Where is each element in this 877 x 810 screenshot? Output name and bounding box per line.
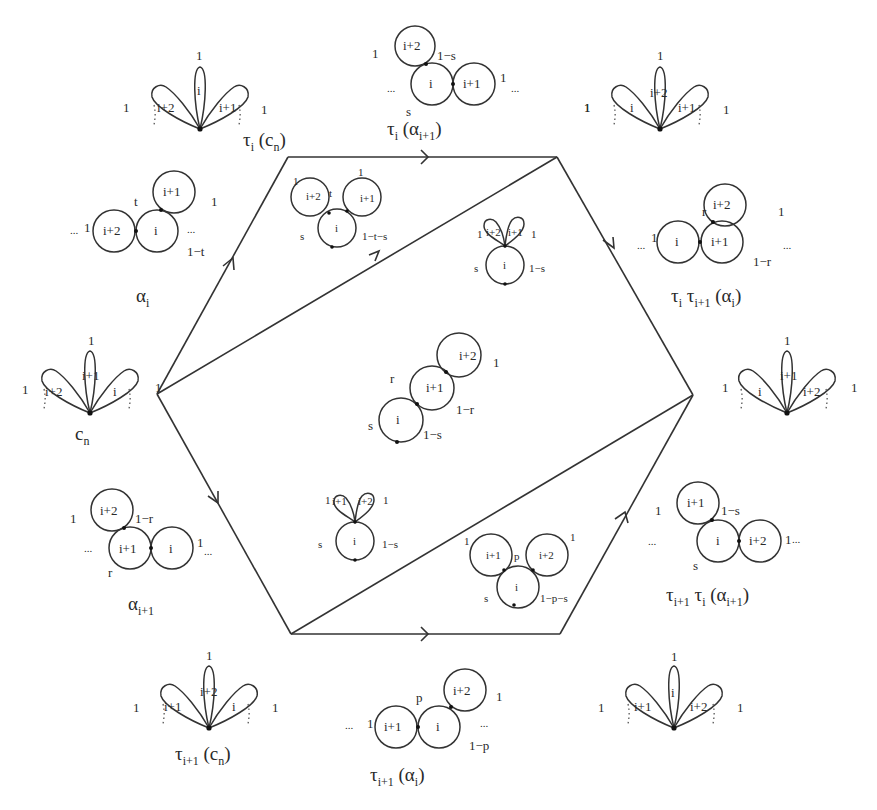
- svg-text:...: ...: [511, 82, 520, 94]
- svg-text:s: s: [474, 262, 478, 274]
- svg-text:i: i: [113, 384, 117, 399]
- svg-text:...: ...: [648, 535, 657, 547]
- svg-text:i+1: i+1: [163, 184, 180, 199]
- svg-text:i+1: i+1: [219, 100, 236, 115]
- svg-text:i+1: i+1: [463, 76, 480, 91]
- svg-text:i+2: i+2: [45, 384, 62, 399]
- svg-text:...: ...: [187, 223, 196, 235]
- svg-text:i+1: i+1: [711, 234, 728, 249]
- svg-text:1: 1: [272, 700, 279, 715]
- svg-text:1: 1: [531, 228, 537, 240]
- svg-text:s: s: [300, 230, 304, 242]
- svg-text:i+1: i+1: [332, 495, 347, 507]
- svg-text:1−r: 1−r: [456, 402, 475, 417]
- svg-text:i: i: [671, 685, 675, 700]
- svg-text:1: 1: [464, 535, 470, 547]
- svg-text:1: 1: [372, 46, 379, 61]
- svg-text:...: ...: [783, 239, 792, 251]
- svg-text:p: p: [514, 550, 520, 562]
- flower-tau-i-cn: 1 i i+2 i+1 1 1 τi (cn): [123, 48, 286, 154]
- svg-text:1−s: 1−s: [423, 427, 442, 442]
- config-alpha-i1: i+2 i+1 i 1 1−r ... 1 ... r αi+1: [70, 489, 213, 618]
- svg-text:1: 1: [722, 380, 729, 395]
- svg-text:i+1: i+1: [360, 192, 375, 204]
- svg-text:1−s: 1−s: [529, 262, 545, 274]
- svg-text:i+1: i+1: [678, 100, 695, 115]
- svg-text:i+2: i+2: [459, 348, 476, 363]
- svg-text:s: s: [318, 538, 322, 550]
- config-alpha-i: i+1 i+2 i t 1 ... 1 ... 1−t αi: [70, 171, 218, 310]
- svg-text:1: 1: [493, 355, 500, 370]
- svg-text:i+1: i+1: [82, 368, 99, 383]
- svg-text:1−p: 1−p: [469, 738, 489, 753]
- svg-text:...: ...: [345, 719, 354, 731]
- svg-text:i+1: i+1: [687, 495, 704, 510]
- svg-text:1: 1: [367, 716, 374, 731]
- svg-text:i: i: [503, 259, 506, 271]
- svg-text:1: 1: [84, 220, 91, 235]
- svg-text:i+2: i+2: [803, 384, 820, 399]
- svg-text:1: 1: [358, 166, 364, 178]
- svg-text:...: ...: [70, 224, 79, 236]
- svg-text:i: i: [335, 222, 338, 234]
- svg-text:τi (αi+1): τi (αi+1): [387, 118, 441, 143]
- svg-text:1: 1: [778, 204, 785, 219]
- svg-text:1: 1: [784, 333, 791, 348]
- svg-text:1: 1: [785, 532, 792, 547]
- svg-text:i+1: i+1: [384, 719, 401, 734]
- svg-text:1: 1: [496, 689, 503, 704]
- svg-text:s: s: [693, 558, 698, 573]
- config-center-chain: i+2 i+1 i 1 r 1−r s 1−s: [368, 333, 500, 444]
- svg-text:αi+1: αi+1: [128, 593, 154, 618]
- flower-right: 1 i+1 i i+2 1 1: [722, 333, 858, 416]
- svg-text:...: ...: [387, 82, 396, 94]
- svg-text:1: 1: [88, 333, 95, 348]
- svg-text:i: i: [353, 535, 356, 547]
- svg-text:i+2: i+2: [453, 683, 470, 698]
- config-inner-bottom-right: i+1 i+2 i 1 1 p s 1−p−s: [464, 531, 576, 608]
- svg-text:1: 1: [570, 531, 576, 543]
- hexagon-edges: [157, 157, 693, 634]
- svg-text:1−r: 1−r: [753, 254, 772, 269]
- svg-text:1: 1: [500, 70, 507, 85]
- config-tau-i-tau-i1-alpha-i: i+2 i i+1 r 1 ... 1 ... 1−r τi τi+1 (αi): [637, 184, 792, 310]
- svg-text:1−r: 1−r: [135, 511, 154, 526]
- svg-text:1−s: 1−s: [437, 48, 456, 63]
- svg-text:s: s: [484, 592, 488, 604]
- arrow-icon: [615, 512, 628, 523]
- svg-text:1: 1: [196, 48, 203, 63]
- flower-tau-i1-cn: 1 i+2 i+1 i 1 1 τi+1 (cn): [133, 648, 279, 768]
- svg-text:i: i: [675, 234, 679, 249]
- svg-text:i: i: [630, 100, 634, 115]
- arrow-icon: [369, 251, 379, 261]
- svg-text:i+2: i+2: [690, 699, 707, 714]
- svg-text:i+1: i+1: [508, 226, 523, 238]
- svg-text:1: 1: [655, 503, 662, 518]
- svg-text:r: r: [390, 371, 395, 386]
- svg-text:i+2: i+2: [157, 100, 174, 115]
- config-inner-top-right: i+2 i+1 1 1 i s 1−s: [474, 217, 545, 285]
- svg-text:i+1: i+1: [164, 699, 181, 714]
- flower-cn: 1 i+1 i+2 i 1 1 cn: [22, 333, 162, 448]
- svg-text:r: r: [702, 204, 707, 219]
- svg-text:1: 1: [211, 194, 218, 209]
- svg-text:i+1: i+1: [634, 699, 651, 714]
- config-tau-i1-tau-i-alpha-i1: i+1 i i+2 1 1−s ... 1 ... s τi+1 τi (αi+…: [648, 482, 801, 609]
- svg-text:1: 1: [70, 511, 77, 526]
- svg-text:τi (cn): τi (cn): [243, 129, 286, 154]
- svg-text:i+2: i+2: [200, 684, 217, 699]
- svg-text:1: 1: [598, 700, 605, 715]
- svg-text:1: 1: [325, 494, 331, 506]
- config-tau-i1-alpha-i: i+2 i+1 i p 1 ... 1 ... 1−p τi+1 (αi): [345, 669, 503, 789]
- svg-text:cn: cn: [75, 423, 89, 448]
- svg-text:1: 1: [851, 380, 858, 395]
- svg-text:i+1: i+1: [780, 368, 797, 383]
- svg-text:τi+1 (cn): τi+1 (cn): [175, 743, 231, 768]
- svg-text:...: ...: [637, 239, 646, 251]
- svg-text:i+1: i+1: [486, 549, 501, 561]
- svg-text:i+2: i+2: [650, 85, 667, 100]
- svg-text:τi+1 (αi): τi+1 (αi): [370, 764, 424, 789]
- flower-top-right: 1 i+2 i i+1 1 1: [584, 48, 730, 132]
- svg-text:1−t: 1−t: [187, 244, 205, 259]
- svg-text:1: 1: [657, 48, 664, 63]
